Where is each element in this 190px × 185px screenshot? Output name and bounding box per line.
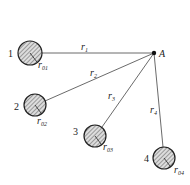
source-label-3: 3 [73,126,78,137]
distance-label-r3: r3 [108,90,115,102]
diagram-canvas: 1 r01 2 r02 3 r03 4 r04 r1 r2 r3 r4 A [0,0,190,185]
distance-label-r1: r1 [81,41,88,53]
source-4: 4 r04 [144,147,184,176]
point-a-marker [152,51,156,55]
source-2: 2 r02 [14,94,47,127]
point-a-label: A [158,48,166,59]
radius-label-1: r01 [38,59,48,71]
distance-label-r4: r4 [150,104,157,116]
distance-label-r2: r2 [90,67,97,79]
source-label-1: 1 [8,48,13,59]
source-label-4: 4 [144,153,149,164]
radius-label-2: r02 [37,115,47,127]
source-3: 3 r03 [73,125,113,153]
radius-label-3: r03 [103,141,113,153]
source-label-2: 2 [14,101,19,112]
source-1: 1 r01 [8,41,48,71]
line-r4 [154,53,163,147]
radius-label-4: r04 [174,164,184,176]
line-r2 [45,53,154,101]
